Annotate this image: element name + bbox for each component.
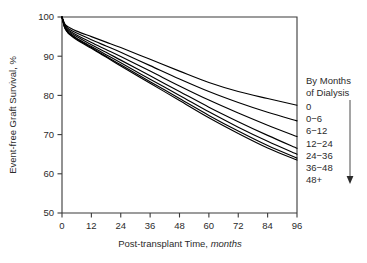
y-tick-label: 90 <box>43 51 54 62</box>
x-axis-title: Post-transplant Time, months <box>118 238 242 249</box>
x-tick-label: 12 <box>86 220 97 231</box>
x-tick-label: 84 <box>262 220 273 231</box>
x-tick-label: 96 <box>292 220 303 231</box>
legend-entry: 12−24 <box>306 138 333 149</box>
x-tick-label: 0 <box>59 220 64 231</box>
legend-entry: 0−6 <box>306 113 322 124</box>
x-axis-tick-labels: 01224364860728496 <box>59 220 302 231</box>
legend-entry: 36−48 <box>306 162 333 173</box>
legend-entry: 6−12 <box>306 125 327 136</box>
x-tick-label: 36 <box>145 220 156 231</box>
x-tick-label: 24 <box>115 220 126 231</box>
y-tick-label: 70 <box>43 129 54 140</box>
x-tick-label: 60 <box>204 220 215 231</box>
y-tick-label: 80 <box>43 90 54 101</box>
y-tick-label: 60 <box>43 168 54 179</box>
chart-svg: 01224364860728496 5060708090100 Post-tra… <box>0 0 367 263</box>
y-axis-title: Event-free Graft Survival, % <box>7 56 18 174</box>
y-tick-label: 100 <box>38 11 54 22</box>
legend-header-line1: By Months <box>306 75 351 86</box>
x-tick-label: 72 <box>233 220 244 231</box>
legend-entry: 48+ <box>306 174 323 185</box>
x-tick-label: 48 <box>174 220 185 231</box>
legend-entry: 0 <box>306 101 311 112</box>
y-tick-label: 50 <box>43 207 54 218</box>
legend-header-line2: of Dialysis <box>306 87 350 98</box>
legend-entry: 24−36 <box>306 150 333 161</box>
